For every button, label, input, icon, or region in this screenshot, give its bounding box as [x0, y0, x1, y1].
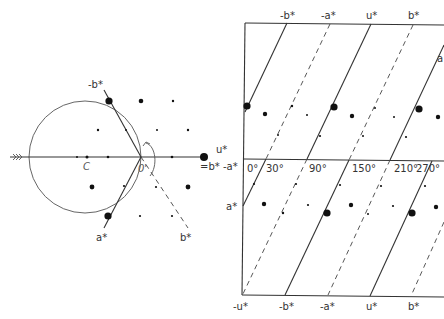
bottom-label-minus-a-star: -a*: [320, 301, 335, 312]
angle-label-90: 90°: [309, 163, 327, 174]
angle-label-0: 0°: [247, 163, 258, 174]
label-origin: 0': [138, 163, 147, 174]
bottom-label-minus-b-star: -b*: [279, 301, 294, 312]
frame-top: [245, 23, 444, 25]
right-lower-points: [253, 183, 438, 217]
lower-slanted-lines: [242, 159, 444, 296]
bottom-label-minus-u-star: -u*: [233, 301, 248, 312]
top-label-a: a: [437, 53, 443, 64]
top-label-u-star: u*: [366, 10, 377, 21]
top-label-minus-b-star: -b*: [280, 10, 295, 21]
rotation-arc: [146, 143, 155, 176]
label-minus-b-star: -b*: [88, 79, 103, 90]
angle-label-210: 210°: [394, 163, 418, 174]
bottom-label-b-star: b*: [408, 301, 419, 312]
label-b-star: b*: [180, 232, 191, 243]
left-diagram: -b* u* =b* -a* C 0' a* b*: [10, 79, 238, 243]
top-label-b-star: b*: [408, 10, 419, 21]
b-star-axis: [141, 157, 188, 228]
label-b-star-minus-a-star: =b* -a*: [200, 161, 238, 172]
frame-bottom: [242, 295, 444, 297]
angle-label-270: 270°: [416, 163, 440, 174]
label-center-c: C: [83, 161, 90, 172]
bottom-label-u-star: u*: [366, 301, 377, 312]
right-diagram: -b* -a* u* b* a -u* -b* -a* u* b* a* 0° …: [226, 10, 444, 312]
left-label-a-star: a*: [226, 201, 237, 212]
upper-slanted-lines: [245, 23, 444, 160]
right-upper-points: [243, 102, 440, 138]
frame-middle: [244, 159, 444, 161]
label-a-star: a*: [96, 232, 107, 243]
angle-label-30: 30°: [266, 163, 284, 174]
label-u-star: u*: [216, 144, 227, 155]
angle-label-150: 150°: [352, 163, 376, 174]
top-label-minus-a-star: -a*: [321, 10, 336, 21]
reciprocal-lattice-figure: -b* u* =b* -a* C 0' a* b*: [0, 0, 444, 319]
